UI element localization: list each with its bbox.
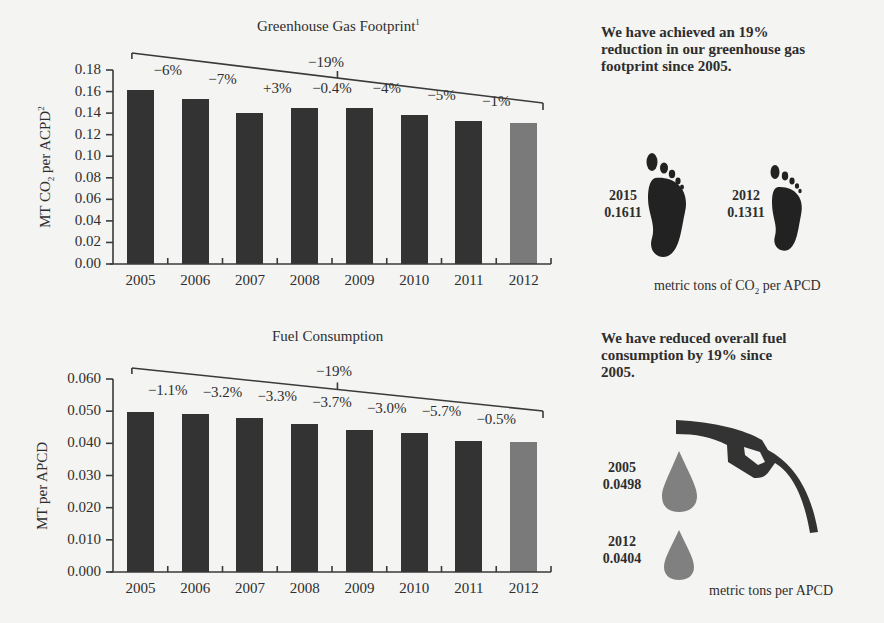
bar-2005 xyxy=(127,412,154,572)
y-tick-label: 0.060 xyxy=(41,370,101,387)
change-label: −3.7% xyxy=(302,394,362,411)
change-label: −3.2% xyxy=(193,384,253,401)
x-tick-label: 2011 xyxy=(444,580,494,597)
x-tick-label: 2009 xyxy=(334,580,384,597)
y-tick-label: 0.040 xyxy=(41,434,101,451)
bar-2011 xyxy=(455,441,482,572)
y-tick-label: 0.050 xyxy=(41,402,101,419)
fuel-overall-change: −19% xyxy=(304,363,364,380)
change-label: −5.7% xyxy=(412,403,472,420)
fuel-unit-label: metric tons per APCD xyxy=(709,583,833,599)
y-tick-label: 0.000 xyxy=(41,563,101,580)
x-tick-label: 2005 xyxy=(115,580,165,597)
fuel-chart-title: Fuel Consumption xyxy=(272,328,383,345)
bar-2007 xyxy=(236,418,263,572)
bar-2006 xyxy=(182,414,209,572)
footprint-icon-large xyxy=(647,153,687,257)
fuel-nozzle-icon xyxy=(676,420,818,533)
fuel-stat-2012: 20120.0404 xyxy=(594,533,650,567)
ghg-stat-2005: 20150.1611 xyxy=(598,187,648,221)
fuel-callout: We have reduced overall fuel consumption… xyxy=(601,330,791,381)
fuel-drop-icon-large xyxy=(662,451,697,512)
fuel-drop-icon-small xyxy=(664,530,694,580)
fuel-stat-2005: 20050.0498 xyxy=(594,459,650,493)
change-label: −1.1% xyxy=(138,382,198,399)
change-label: −3.3% xyxy=(247,388,307,405)
change-label: −3.0% xyxy=(357,400,417,417)
bar-2012 xyxy=(510,442,537,572)
change-label: −0.5% xyxy=(466,411,526,428)
y-tick-label: 0.020 xyxy=(41,499,101,516)
ghg-stat-2012: 20120.1311 xyxy=(720,187,772,221)
x-tick-label: 2006 xyxy=(170,580,220,597)
x-tick-label: 2008 xyxy=(280,580,330,597)
ghg-callout: We have achieved an 19% reduction in our… xyxy=(601,24,833,75)
x-tick-label: 2012 xyxy=(499,580,549,597)
footprint-icon-small xyxy=(771,165,802,251)
fuel-y-axis-label: MT per APCD xyxy=(34,442,51,530)
ghg-unit-label: metric tons of CO2 per APCD xyxy=(654,278,821,296)
y-tick-label: 0.030 xyxy=(41,467,101,484)
bar-2009 xyxy=(346,430,373,572)
bar-2008 xyxy=(291,424,318,572)
x-tick-label: 2007 xyxy=(225,580,275,597)
bar-2010 xyxy=(401,433,428,572)
fuel-chart: Fuel Consumption MT per APCD 0.0600.0500… xyxy=(0,0,580,623)
y-tick-label: 0.010 xyxy=(41,531,101,548)
x-tick-label: 2010 xyxy=(389,580,439,597)
